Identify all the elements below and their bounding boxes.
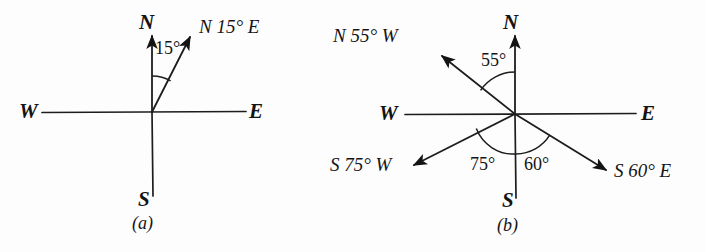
panel-a-angle-label-15: 15°	[155, 39, 180, 57]
arc-55-degrees	[481, 72, 515, 90]
panel-b-south-label: S	[502, 190, 514, 211]
panel-a-axes	[42, 36, 246, 196]
panel-a-east-label: E	[249, 101, 263, 122]
panel-b-ray-label-n55w: N 55° W	[333, 26, 398, 45]
panel-a-west-label: W	[19, 101, 38, 122]
panel-b-caption: (b)	[497, 216, 518, 234]
arc-15-degrees	[152, 76, 171, 81]
panel-a-south-axis	[152, 112, 153, 196]
panel-b-west-label: W	[379, 103, 398, 124]
panel-a-ray-label-n15e: N 15° E	[199, 17, 259, 36]
panel-b-ray-label-s60e: S 60° E	[614, 161, 671, 180]
panel-a-north-label: N	[139, 12, 154, 33]
panel-b-angle-label-60: 60°	[524, 155, 549, 173]
panel-a-south-label: S	[138, 189, 150, 210]
ray-s75w	[414, 114, 515, 165]
panel-b-west-east-axis	[405, 114, 636, 115]
figure-canvas: N S W E N 15° E 15° (a) N S W E N 55° W …	[0, 0, 705, 252]
panel-b-angle-label-75: 75°	[470, 155, 495, 173]
panel-b-north-label: N	[503, 12, 518, 33]
panel-b-ray-label-s75w: S 75° W	[330, 155, 391, 174]
panel-a-west-east-axis	[42, 112, 246, 113]
panel-b-angle-label-55: 55°	[481, 51, 506, 69]
arc-75-degrees	[476, 129, 516, 154]
panel-a-caption: (a)	[132, 214, 153, 232]
panel-b-east-label: E	[641, 103, 655, 124]
arc-60-degrees	[516, 135, 550, 154]
panel-b-south-axis	[515, 114, 516, 198]
